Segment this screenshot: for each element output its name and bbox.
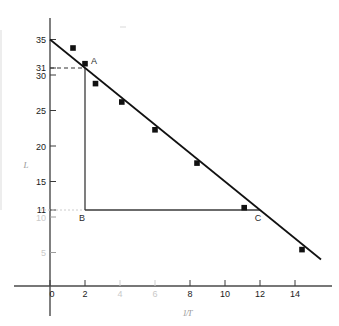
x-tick-label-6: 6 [152,289,157,299]
x-tick-label-4: 4 [117,289,122,299]
data-point [93,81,99,87]
data-point [82,61,88,67]
chart-background [0,0,339,326]
x-tick-label-14: 14 [290,289,300,299]
y-tick-label-25: 25 [36,106,46,116]
data-point [119,99,125,105]
x-tick-label-0: 0 [49,289,54,299]
x-tick-label-10: 10 [220,289,230,299]
data-point [152,127,158,133]
scan-artifact-left [0,30,2,210]
y-tick-label-15: 15 [36,177,46,187]
y-axis-title: L [22,160,28,170]
y-tick-label-5: 5 [41,248,46,258]
data-point [70,45,76,51]
x-tick-label-12: 12 [255,289,265,299]
vertex-label-B: B [79,213,85,223]
x-tick-label-8: 8 [187,289,192,299]
y-tick-label-35: 35 [36,35,46,45]
scan-artifact-top [120,26,126,28]
x-tick-label-2: 2 [82,289,87,299]
data-point [194,160,200,166]
y-tick-label-31: 31 [36,63,46,73]
vertex-label-C: C [255,213,262,223]
chart-figure: 5 10 11 15 20 25 30 31 35 0 2 4 6 8 10 1… [0,0,339,326]
data-point [299,247,305,253]
y-tick-label-20: 20 [36,142,46,152]
vertex-label-A: A [91,56,97,66]
data-point [241,205,247,211]
